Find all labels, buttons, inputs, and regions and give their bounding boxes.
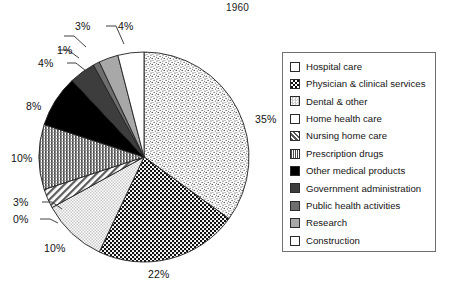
legend-swatch-icon bbox=[290, 201, 300, 211]
slice-value-prescription-drugs: 10% bbox=[11, 152, 32, 164]
slice-value-hospital-care: 35% bbox=[255, 113, 276, 125]
legend-item[interactable]: Research bbox=[290, 215, 435, 232]
legend-swatch-icon bbox=[290, 114, 300, 124]
legend-swatch-icon bbox=[290, 96, 300, 106]
legend-item[interactable]: Other medical products bbox=[290, 162, 435, 179]
slice-value-research: 3% bbox=[75, 20, 90, 32]
pie-chart-figure: 1960 bbox=[0, 0, 451, 292]
legend-swatch-icon bbox=[290, 62, 300, 72]
legend-item[interactable]: Home health care bbox=[290, 110, 435, 127]
legend-swatch-icon bbox=[290, 183, 300, 193]
slice-value-other-medical-products: 8% bbox=[26, 100, 41, 112]
legend-item-label: Prescription drugs bbox=[306, 149, 383, 159]
legend-item[interactable]: Hospital care bbox=[290, 58, 435, 75]
slice-value-nursing-home-care: 3% bbox=[13, 196, 28, 208]
legend-item-label: Home health care bbox=[306, 114, 382, 124]
slice-value-public-health-activities: 1% bbox=[57, 44, 72, 56]
slice-value-government-administration: 4% bbox=[38, 57, 53, 69]
slice-value-home-health-care: 0% bbox=[13, 213, 28, 225]
legend-item-label: Public health activities bbox=[306, 201, 400, 211]
legend-swatch-icon bbox=[290, 79, 300, 89]
legend-swatch-icon bbox=[290, 149, 300, 159]
legend-swatch-icon bbox=[290, 218, 300, 228]
legend-item-label: Construction bbox=[306, 236, 360, 246]
legend-item-label: Government administration bbox=[306, 184, 421, 194]
legend-item[interactable]: Prescription drugs bbox=[290, 145, 435, 162]
legend-item[interactable]: Construction bbox=[290, 232, 435, 249]
slice-value-dental-other: 10% bbox=[44, 242, 65, 254]
legend-item[interactable]: Nursing home care bbox=[290, 128, 435, 145]
legend-item[interactable]: Dental & other bbox=[290, 93, 435, 110]
legend-item[interactable]: Government administration bbox=[290, 180, 435, 197]
legend-item-label: Nursing home care bbox=[306, 131, 387, 141]
legend-item[interactable]: Public health activities bbox=[290, 197, 435, 214]
slice-value-construction: 4% bbox=[118, 20, 133, 32]
slice-value-physician-clinical-services: 22% bbox=[148, 268, 169, 280]
legend-item[interactable]: Physician & clinical services bbox=[290, 75, 435, 92]
legend-item-label: Physician & clinical services bbox=[306, 79, 425, 89]
pie-slice-group bbox=[39, 52, 249, 262]
chart-legend: Hospital carePhysician & clinical servic… bbox=[282, 52, 436, 252]
legend-item-label: Other medical products bbox=[306, 166, 405, 176]
legend-swatch-icon bbox=[290, 236, 300, 246]
legend-swatch-icon bbox=[290, 131, 300, 141]
legend-item-label: Research bbox=[306, 218, 347, 228]
legend-item-label: Hospital care bbox=[306, 62, 362, 72]
legend-item-label: Dental & other bbox=[306, 97, 367, 107]
legend-swatch-icon bbox=[290, 166, 300, 176]
